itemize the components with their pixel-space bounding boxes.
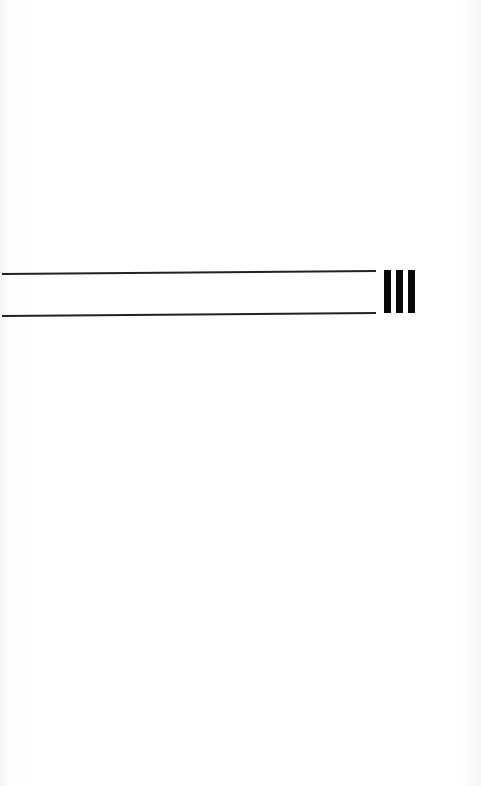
scanned-page [0, 0, 481, 786]
final-barline-stroke-2 [396, 270, 403, 313]
top-staff-line [2, 270, 376, 275]
bottom-staff-line [2, 312, 376, 317]
final-barline-stroke-3 [408, 270, 415, 313]
final-barline-stroke-1 [384, 270, 391, 313]
